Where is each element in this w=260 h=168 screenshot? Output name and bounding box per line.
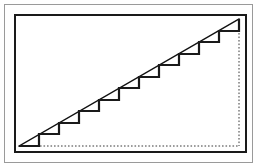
figure-container xyxy=(0,0,260,168)
staircase-line-figure xyxy=(0,0,260,168)
